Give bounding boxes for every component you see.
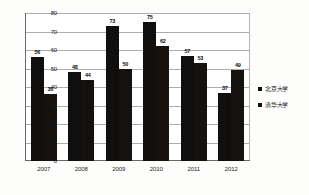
bar-value-label: 50	[122, 61, 128, 67]
bar-group: 5753	[181, 13, 207, 161]
legend-item: 北京大学	[258, 84, 288, 93]
bar-value-label: 53	[197, 55, 203, 61]
y-axis-tick-label: 30	[35, 103, 57, 109]
y-axis-tick-label: 40	[35, 84, 57, 90]
bar-group: 4844	[68, 13, 94, 161]
x-axis-tick-label: 2008	[63, 166, 99, 172]
bar-chart: 563648447350756257533749	[25, 13, 250, 161]
y-axis-tick-label: 0	[35, 158, 57, 164]
x-axis-tick-label: 2007	[26, 166, 62, 172]
bar: 62	[156, 46, 169, 161]
bar-value-label: 62	[160, 38, 166, 44]
bar-value-label: 49	[235, 62, 241, 68]
bar: 44	[81, 80, 94, 161]
y-axis-tick-label: 50	[35, 66, 57, 72]
legend-swatch-icon	[258, 103, 262, 107]
x-axis-tick-label: 2009	[101, 166, 137, 172]
bar-value-label: 37	[222, 85, 228, 91]
bar-value-label: 48	[72, 64, 78, 70]
bar: 75	[143, 22, 156, 161]
x-axis-tick-label: 2012	[213, 166, 249, 172]
bar: 48	[68, 72, 81, 161]
x-axis-tick-labels: 200720082009201020112012	[25, 166, 250, 172]
bar: 73	[106, 26, 119, 161]
chart-page: 563648447350756257533749 010203040506070…	[0, 0, 309, 195]
y-axis-tick-label: 70	[35, 29, 57, 35]
y-axis-tick-label: 60	[35, 47, 57, 53]
x-axis-tick-label: 2011	[176, 166, 212, 172]
bar-value-label: 75	[147, 14, 153, 20]
legend-label: 清华大学	[265, 100, 288, 109]
bar: 50	[119, 69, 132, 162]
bar: 49	[231, 70, 244, 161]
bar-group: 3749	[218, 13, 244, 161]
bar: 53	[194, 63, 207, 161]
y-axis-tick-label: 20	[35, 121, 57, 127]
bar-group-container: 563648447350756257533749	[25, 13, 250, 161]
bar: 37	[218, 93, 231, 161]
legend-label: 北京大学	[265, 84, 288, 93]
bar: 57	[181, 56, 194, 161]
y-axis-tick-label: 80	[35, 10, 57, 16]
legend-item: 清华大学	[258, 100, 288, 109]
bar-value-label: 44	[85, 72, 91, 78]
bar-group: 7562	[143, 13, 169, 161]
legend-swatch-icon	[258, 87, 262, 91]
x-axis-tick-label: 2010	[138, 166, 174, 172]
bar-group: 7350	[106, 13, 132, 161]
chart-legend: 北京大学清华大学	[258, 84, 288, 109]
y-axis-tick-label: 10	[35, 140, 57, 146]
bar-value-label: 73	[109, 18, 115, 24]
bar-value-label: 57	[184, 48, 190, 54]
